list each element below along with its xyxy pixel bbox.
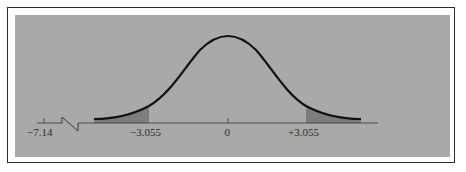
label-center: 0	[225, 126, 231, 138]
label-left-critical: −3.055	[130, 126, 161, 138]
normal-curve-diagram: −7.14 −3.055 0 +3.055	[0, 0, 466, 172]
right-tail-shaded-region	[306, 106, 361, 123]
left-tail-shaded-region	[94, 106, 149, 123]
axis-break-icon	[62, 117, 78, 131]
label-right-critical: +3.055	[288, 126, 319, 138]
normal-curve	[94, 36, 361, 119]
label-far-left: −7.14	[27, 126, 53, 138]
